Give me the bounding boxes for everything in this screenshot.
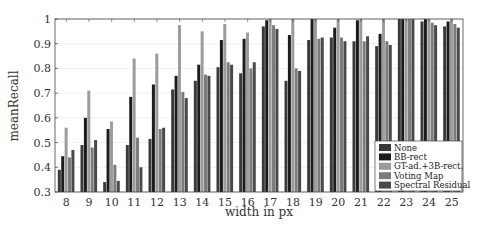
bar	[126, 145, 129, 192]
y-tick-label: 0.7	[34, 87, 52, 100]
bar	[291, 19, 294, 192]
bar	[246, 33, 249, 192]
x-axis-label: width in px	[225, 205, 293, 219]
bar	[110, 122, 113, 192]
x-tick-label: 9	[86, 196, 93, 209]
bar	[317, 39, 320, 192]
bar	[363, 41, 366, 192]
bar	[353, 41, 356, 192]
x-tick-label: 14	[195, 196, 209, 209]
bar	[94, 140, 97, 192]
bar	[295, 68, 298, 192]
bar	[333, 28, 336, 192]
bar	[155, 54, 158, 192]
x-tick-label: 22	[377, 196, 391, 209]
bar	[285, 81, 288, 192]
bar	[149, 139, 152, 192]
x-tick-label: 24	[422, 196, 436, 209]
bar	[249, 68, 252, 192]
x-tick-label: 12	[150, 196, 164, 209]
bar	[330, 38, 333, 192]
bar	[223, 24, 226, 192]
bar	[230, 65, 233, 192]
y-tick-label: 0.8	[34, 62, 52, 75]
bar	[117, 181, 120, 192]
bar	[61, 156, 64, 192]
bar	[181, 92, 184, 192]
y-axis-ticks: 0.30.40.50.60.70.80.91	[34, 13, 59, 199]
bar	[91, 148, 94, 192]
bar	[87, 91, 90, 192]
bar	[298, 71, 301, 192]
bar	[171, 89, 174, 192]
x-tick-label: 10	[105, 196, 119, 209]
bar	[178, 25, 181, 192]
bar	[217, 67, 220, 192]
bar	[129, 97, 132, 192]
y-tick-label: 0.9	[34, 38, 52, 51]
bar	[275, 29, 278, 192]
legend-swatch	[379, 144, 391, 151]
bar	[356, 20, 359, 192]
bar	[359, 19, 362, 192]
bar	[311, 19, 314, 192]
bar	[272, 25, 275, 192]
y-tick-label: 0.5	[34, 137, 52, 150]
legend-swatch	[379, 163, 391, 170]
bar	[239, 73, 242, 192]
bar	[262, 26, 265, 192]
bar	[207, 76, 210, 192]
bar	[194, 81, 197, 192]
bar	[71, 150, 74, 192]
bar	[58, 170, 61, 192]
bar	[84, 118, 87, 192]
bar	[162, 128, 165, 192]
bar	[314, 19, 317, 192]
bar	[133, 59, 136, 192]
bar	[321, 38, 324, 192]
bar	[136, 138, 139, 192]
y-axis-label: meanRecall	[7, 70, 21, 141]
bar	[243, 39, 246, 192]
bar	[113, 165, 116, 192]
bar	[288, 35, 291, 192]
bar	[107, 129, 110, 192]
bar-chart: 0.30.40.50.60.70.80.91 89101112131415161…	[0, 0, 481, 227]
legend: NoneBB-rectGT-ad.+3B-rect.Voting MapSpec…	[375, 141, 471, 191]
bar	[81, 145, 84, 192]
bar	[227, 62, 230, 192]
y-tick-label: 0.6	[34, 112, 52, 125]
x-tick-label: 11	[127, 196, 141, 209]
bar	[103, 182, 106, 192]
x-tick-label: 20	[331, 196, 345, 209]
bar	[269, 19, 272, 192]
bar	[65, 128, 68, 192]
y-tick-label: 0.4	[34, 161, 52, 174]
bar	[152, 84, 155, 192]
x-tick-label: 21	[354, 196, 368, 209]
bar	[159, 129, 162, 192]
bar	[197, 65, 200, 192]
x-tick-label: 25	[445, 196, 459, 209]
bar	[220, 40, 223, 192]
x-tick-label: 13	[173, 196, 187, 209]
bar	[185, 98, 188, 192]
y-tick-label: 1	[44, 13, 51, 26]
y-tick-label: 0.3	[34, 186, 52, 199]
bar	[343, 41, 346, 192]
legend-swatch	[379, 172, 391, 179]
x-tick-label: 19	[309, 196, 323, 209]
bar	[307, 40, 310, 192]
bar	[337, 19, 340, 192]
bar	[68, 157, 71, 192]
bar	[366, 36, 369, 192]
legend-swatch	[379, 182, 391, 189]
bar	[340, 38, 343, 192]
bar	[204, 75, 207, 192]
bar	[175, 76, 178, 192]
x-tick-label: 23	[399, 196, 413, 209]
bar	[201, 31, 204, 192]
bar	[253, 62, 256, 192]
bar	[265, 20, 268, 192]
legend-label: Spectral Residual	[394, 180, 471, 190]
